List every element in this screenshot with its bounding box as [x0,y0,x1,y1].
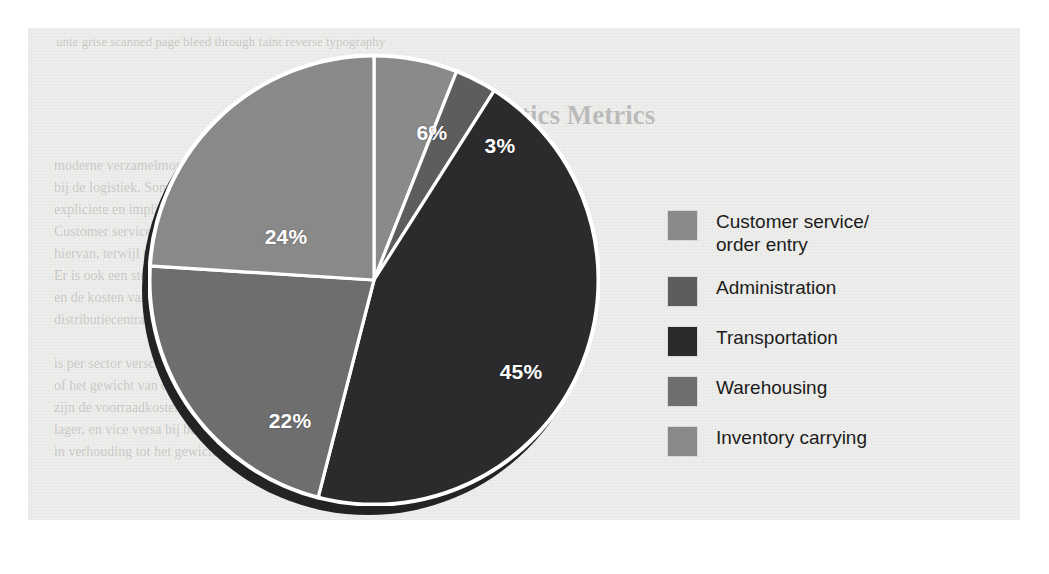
pie-svg [148,54,600,506]
legend-item-label: Inventory carrying [716,426,867,449]
legend-swatch-icon [668,427,697,456]
pie-slice-percent-label: 45% [500,360,543,384]
legend-item-customer-service[interactable]: Customer service/order entry [668,210,988,256]
legend-swatch-icon [668,211,697,240]
pie-slice-percent-label: 6% [417,121,448,145]
pie-slices [148,54,600,506]
figure-panel: unte grise scanned page bleed through fa… [28,28,1020,520]
pie-slice-percent-label: 3% [485,134,516,158]
legend-item-label: Warehousing [716,376,827,399]
legend-item-label: Administration [716,276,836,299]
legend-item-label: Customer service/order entry [716,210,869,256]
legend-swatch-icon [668,377,697,406]
legend-item-transportation[interactable]: Transportation [668,326,988,356]
pie-slice[interactable] [149,55,374,280]
legend-swatch-icon [668,327,697,356]
legend: Customer service/order entry Administrat… [668,210,988,476]
legend-item-inventory-carrying[interactable]: Inventory carrying [668,426,988,456]
legend-item-warehousing[interactable]: Warehousing [668,376,988,406]
legend-item-administration[interactable]: Administration [668,276,988,306]
pie-slice-percent-label: 22% [269,409,312,433]
pie-slice-percent-label: 24% [265,225,308,249]
legend-item-label: Transportation [716,326,838,349]
legend-swatch-icon [668,277,697,306]
